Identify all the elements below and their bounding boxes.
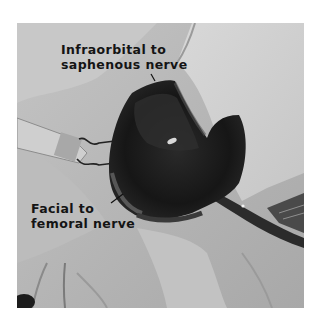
surgical-photo: Infraorbital to saphenous nerve Facial t… <box>17 23 304 308</box>
annotation-line: saphenous nerve <box>61 57 188 72</box>
annotation-facial-to-femoral: Facial to femoral nerve <box>31 201 135 231</box>
annotation-line: Facial to <box>31 201 135 216</box>
annotation-line: femoral nerve <box>31 216 135 231</box>
annotation-line: Infraorbital to <box>61 42 188 57</box>
annotation-infraorbital-to-saphenous: Infraorbital to saphenous nerve <box>61 42 188 72</box>
